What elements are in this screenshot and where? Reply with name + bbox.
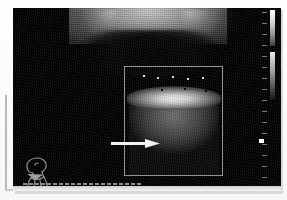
ultrasound-scan-canvas[interactable] (13, 8, 281, 191)
focus-zone-marker[interactable] (259, 139, 264, 143)
arrow-right-icon (111, 134, 160, 143)
depth-tick-column (260, 12, 268, 188)
grayscale-wedge-lower (270, 52, 275, 100)
region-of-interest-box[interactable] (124, 66, 223, 176)
ultrasound-screenshot (0, 0, 287, 200)
grayscale-wedge-upper (270, 10, 275, 46)
left-caliper-rule (5, 95, 7, 191)
scan-footer-band (13, 186, 281, 191)
